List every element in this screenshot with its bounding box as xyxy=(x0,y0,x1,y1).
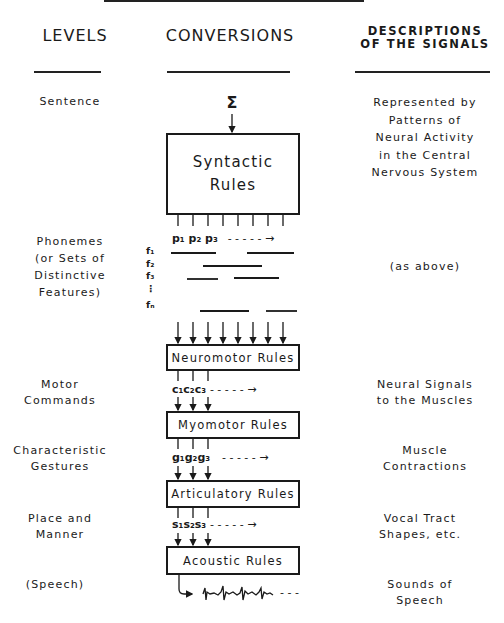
sequence-symbol: c₃ xyxy=(195,383,206,396)
neuromotor-rules-box: Neuromotor Rules xyxy=(166,344,300,371)
feature-label: f₃ xyxy=(146,270,156,283)
speech-waveform xyxy=(203,586,273,600)
waveform-continuation: - - - xyxy=(280,586,299,599)
box-label: Myomotor Rules xyxy=(178,418,288,432)
feature-label: f₁ xyxy=(146,245,156,258)
box-label: Acoustic Rules xyxy=(183,554,283,568)
sequence-symbol: p₁ xyxy=(172,232,185,245)
feature-label: ⋮ xyxy=(146,283,156,296)
gesture-sequence: g₁g₂g₃ - - - - - → xyxy=(172,451,269,464)
shape-sequence: s₁s₂s₃ - - - - - → xyxy=(172,518,257,531)
sequence-symbol: s₃ xyxy=(195,518,206,531)
sequence-continuation-arrow: - - - - - → xyxy=(228,232,275,245)
sequence-continuation-arrow: - - - - - → xyxy=(210,383,257,396)
sequence-symbol: g₁ xyxy=(172,451,185,464)
box-label: Syntactic xyxy=(193,151,273,174)
sequence-symbol: s₁ xyxy=(172,518,183,531)
acoustic-rules-box: Acoustic Rules xyxy=(166,546,300,575)
myomotor-rules-box: Myomotor Rules xyxy=(166,411,300,439)
feature-label: fₙ xyxy=(146,299,156,312)
sequence-symbol: s₂ xyxy=(183,518,194,531)
articulatory-rules-box: Articulatory Rules xyxy=(166,480,300,508)
sigma-symbol: Σ xyxy=(224,93,240,112)
sequence-symbol: g₃ xyxy=(197,451,210,464)
sequence-symbol: c₂ xyxy=(183,383,194,396)
syntactic-rules-box: Syntactic Rules xyxy=(166,133,300,215)
sequence-continuation-arrow: - - - - - → xyxy=(222,451,269,464)
feature-labels: f₁ f₂ f₃ ⋮ fₙ xyxy=(146,245,156,312)
phoneme-sequence: p₁ p₂ p₃ - - - - - → xyxy=(172,232,274,245)
feature-label: f₂ xyxy=(146,258,156,271)
box-label: Rules xyxy=(210,174,256,197)
motor-command-sequence: c₁c₂c₃ - - - - - → xyxy=(172,383,256,396)
box-label: Neuromotor Rules xyxy=(172,351,295,365)
box-label: Articulatory Rules xyxy=(171,487,295,501)
sequence-continuation-arrow: - - - - - → xyxy=(210,518,257,531)
sequence-symbol: g₂ xyxy=(185,451,198,464)
sequence-symbol: c₁ xyxy=(172,383,183,396)
sequence-symbol: p₂ xyxy=(189,232,202,245)
sequence-symbol: p₃ xyxy=(205,232,218,245)
